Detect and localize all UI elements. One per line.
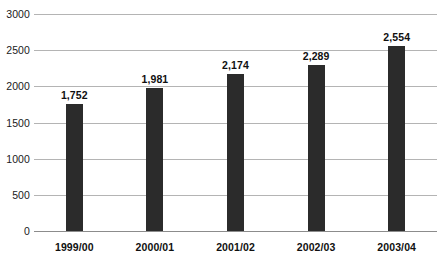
y-axis-tick-label: 2000 [0,81,30,92]
y-axis-tick-label: 3000 [0,9,30,20]
bar-value-label: 2,289 [286,51,346,62]
y-axis-tick-label: 1500 [0,118,30,129]
bar[interactable] [308,65,325,231]
plot-area [34,14,437,231]
gridline [34,50,437,51]
bar-value-label: 1,981 [125,74,185,85]
x-axis-category-label: 1999/00 [39,242,109,253]
bar[interactable] [388,46,405,231]
x-axis-category-label: 2002/03 [281,242,351,253]
axis-baseline [34,231,437,232]
y-axis-tick-label: 1000 [0,154,30,165]
x-axis-category-label: 2003/04 [362,242,432,253]
gridline [34,14,437,15]
y-axis-tick-labels: 050010001500200025003000 [0,14,30,231]
bar[interactable] [146,88,163,231]
bar-value-label: 2,174 [206,60,266,71]
bar-chart: 050010001500200025003000 1,7521,9812,174… [0,0,445,261]
y-axis-tick-label: 2500 [0,45,30,56]
bar[interactable] [227,74,244,231]
bar-value-label: 1,752 [44,90,104,101]
bar-value-label: 2,554 [367,32,427,43]
x-axis-category-label: 2001/02 [201,242,271,253]
y-axis-tick-label: 500 [0,190,30,201]
y-axis-tick-label: 0 [0,226,30,237]
bar[interactable] [66,104,83,231]
x-axis-category-label: 2000/01 [120,242,190,253]
